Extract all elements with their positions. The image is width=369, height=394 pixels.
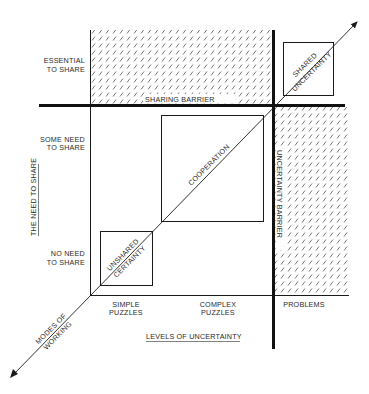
uncertainty-barrier-label: UNCERTAINTY BARRIER — [275, 150, 284, 238]
cooperation-label: COOPERATION — [186, 142, 231, 187]
x-level-problems: PROBLEMS — [283, 300, 325, 309]
x-axis-title: LEVELS OF UNCERTAINTY — [146, 332, 242, 341]
box-cooperation — [162, 116, 264, 222]
y-level-essential-line1: ESSENTIAL — [44, 56, 85, 65]
arrowhead-bottom-left-icon — [10, 369, 18, 378]
hatched-region-top — [91, 30, 273, 104]
y-level-essential-line2: TO SHARE — [47, 65, 85, 74]
y-level-none-line1: NO NEED — [51, 249, 85, 258]
y-axis-title: THE NEED TO SHARE — [29, 158, 38, 236]
x-level-simple-line2: PUZZLES — [109, 308, 143, 317]
modes-of-working-diagram: ESSENTIAL TO SHARE SOME NEED TO SHARE NO… — [0, 0, 369, 394]
x-level-complex-line2: PUZZLES — [201, 308, 235, 317]
y-level-some-line2: TO SHARE — [47, 143, 85, 152]
y-level-none-line2: TO SHARE — [47, 258, 85, 267]
hatched-region-right — [275, 107, 348, 295]
sharing-barrier-label: SHARING BARRIER — [145, 95, 215, 104]
